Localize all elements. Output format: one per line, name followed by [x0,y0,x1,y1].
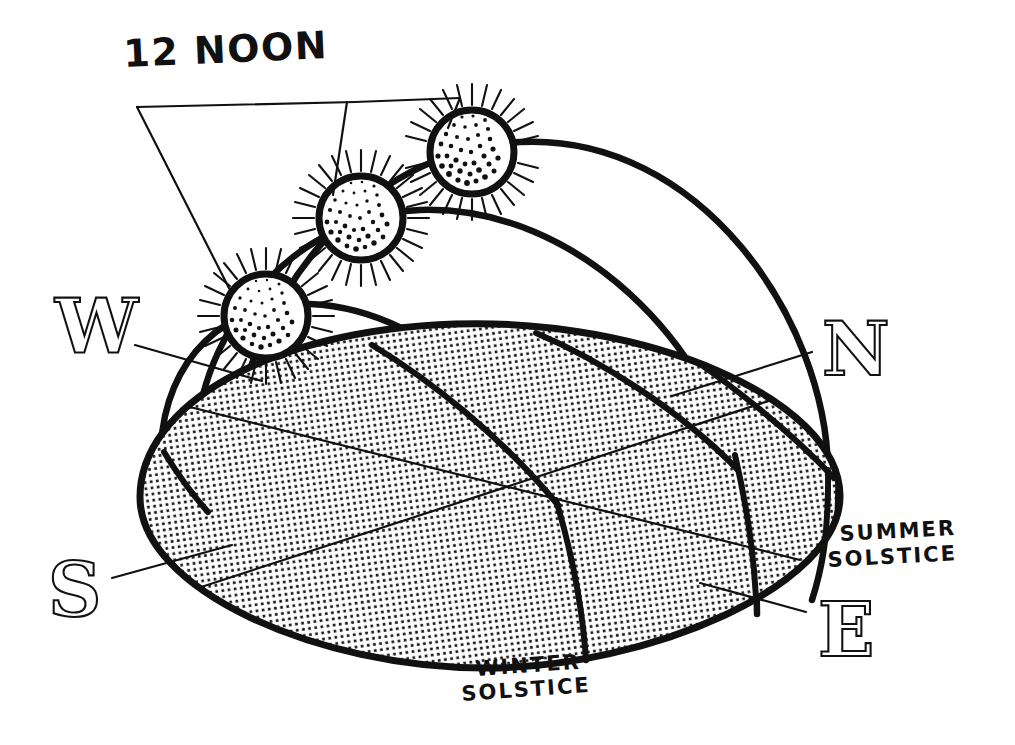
diagram-canvas: 12 NOON WINTER SOLSTICE SUMMER SOLSTICE … [0,0,1015,745]
noon-label: 12 NOON [122,23,329,76]
compass-label-west: W [54,283,139,369]
compass-label-north: N [822,306,890,392]
sun-path-diagram: 12 NOON WINTER SOLSTICE SUMMER SOLSTICE … [0,0,1015,745]
compass-label-south: S [48,547,101,633]
compass-label-east: E [818,587,874,673]
